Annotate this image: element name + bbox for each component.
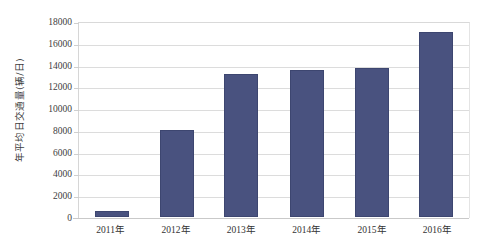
bar-2016[interactable] bbox=[419, 32, 453, 217]
y-tick-label: 6000 bbox=[53, 148, 72, 158]
bar-slot bbox=[144, 23, 209, 218]
y-axis-tick-labels: 18000 16000 14000 12000 10000 8000 6000 … bbox=[30, 0, 76, 251]
bar-2015[interactable] bbox=[355, 68, 389, 218]
y-tick-label: 4000 bbox=[53, 169, 72, 179]
plot-area bbox=[78, 22, 470, 218]
y-tick-label: 2000 bbox=[53, 191, 72, 201]
bar-2013[interactable] bbox=[224, 74, 258, 217]
y-tick-label: 12000 bbox=[48, 82, 72, 92]
y-tick-label: 16000 bbox=[48, 39, 72, 49]
bar-slot bbox=[79, 23, 144, 218]
y-axis-title: 年平均日交通量(辆/日) bbox=[9, 5, 31, 215]
bar-series bbox=[79, 23, 469, 218]
bar-slot bbox=[404, 23, 469, 218]
y-tick-label: 0 bbox=[67, 213, 72, 223]
x-label-2016: 2016年 bbox=[423, 223, 452, 237]
x-label-2011: 2011年 bbox=[96, 223, 125, 237]
bar-slot bbox=[274, 23, 339, 218]
bar-slot bbox=[339, 23, 404, 218]
bar-2014[interactable] bbox=[290, 70, 324, 217]
y-tick-label: 14000 bbox=[48, 61, 72, 71]
x-axis-baseline bbox=[73, 218, 469, 219]
y-tick-label: 8000 bbox=[53, 126, 72, 136]
x-label-2012: 2012年 bbox=[162, 223, 191, 237]
bar-chart: 年平均日交通量(辆/日) 18000 16000 14000 12000 100… bbox=[0, 0, 479, 251]
bar-2012[interactable] bbox=[160, 130, 194, 217]
bar-slot bbox=[209, 23, 274, 218]
y-tick-label: 10000 bbox=[48, 104, 72, 114]
x-label-2015: 2015年 bbox=[358, 223, 387, 237]
x-axis-tick-labels: 2011年 2012年 2013年 2014年 2015年 2016年 bbox=[78, 223, 470, 241]
x-label-2014: 2014年 bbox=[292, 223, 321, 237]
x-label-2013: 2013年 bbox=[227, 223, 256, 237]
bar-2011[interactable] bbox=[95, 211, 129, 218]
y-tick-label: 18000 bbox=[48, 17, 72, 27]
